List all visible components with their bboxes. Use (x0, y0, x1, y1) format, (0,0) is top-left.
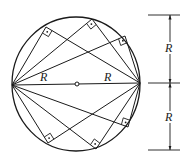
chord-left-3 (12, 85, 48, 143)
radius-label-left: R (39, 70, 48, 84)
dimension-annotation (148, 15, 180, 150)
center-point (75, 82, 79, 86)
chord-left-5 (12, 85, 128, 127)
thales-diagram: R R R R (0, 0, 190, 161)
right-angle-dot-1 (91, 23, 93, 25)
right-angle-dot-5 (125, 122, 127, 124)
chord-left-1 (12, 19, 92, 85)
chord-right-1 (92, 19, 140, 83)
right-angle-dot-2 (122, 40, 124, 42)
dimension-label-lower: R (164, 110, 173, 124)
chord-right-3 (48, 83, 140, 143)
right-angle-dot-3 (48, 137, 50, 139)
radius-label-right: R (103, 70, 112, 84)
dimension-label-upper: R (164, 41, 173, 55)
chord-right-0 (46, 27, 140, 83)
right-angle-dot-4 (94, 143, 96, 145)
chord-right-4 (96, 83, 140, 149)
right-angle-dot-0 (46, 31, 48, 33)
